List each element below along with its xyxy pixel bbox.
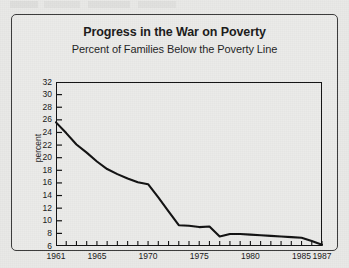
y-tick-label: 10	[30, 216, 52, 225]
x-tick-label: 1987	[308, 252, 336, 261]
x-tick-label: 1980	[236, 252, 264, 261]
plot-area	[56, 82, 322, 246]
chart-outer-frame: Progress in the War on Poverty Percent o…	[11, 14, 338, 251]
x-tick-label: 1961	[42, 252, 70, 261]
x-tick-label: 1975	[185, 252, 213, 261]
y-tick-label: 26	[30, 115, 52, 124]
y-tick-label: 6	[30, 242, 52, 251]
chart-subtitle: Percent of Families Below the Poverty Li…	[12, 43, 337, 55]
y-tick-label: 16	[30, 178, 52, 187]
y-tick-label: 24	[30, 128, 52, 137]
y-tick-label: 12	[30, 204, 52, 213]
y-tick-label: 8	[30, 229, 52, 238]
y-axis-ticks	[56, 95, 62, 234]
poverty-rate-line	[56, 122, 322, 244]
scan-bleed-through	[10, 1, 190, 8]
y-tick-label: 14	[30, 191, 52, 200]
chart-title: Progress in the War on Poverty	[12, 25, 337, 39]
x-tick-label: 1970	[134, 252, 162, 261]
y-tick-label: 28	[30, 103, 52, 112]
y-tick-label: 18	[30, 166, 52, 175]
y-tick-label: 32	[30, 78, 52, 87]
y-tick-label: 20	[30, 153, 52, 162]
x-tick-label: 1965	[83, 252, 111, 261]
x-axis-ticks	[66, 241, 322, 246]
y-tick-label: 22	[30, 141, 52, 150]
y-tick-label: 30	[30, 90, 52, 99]
